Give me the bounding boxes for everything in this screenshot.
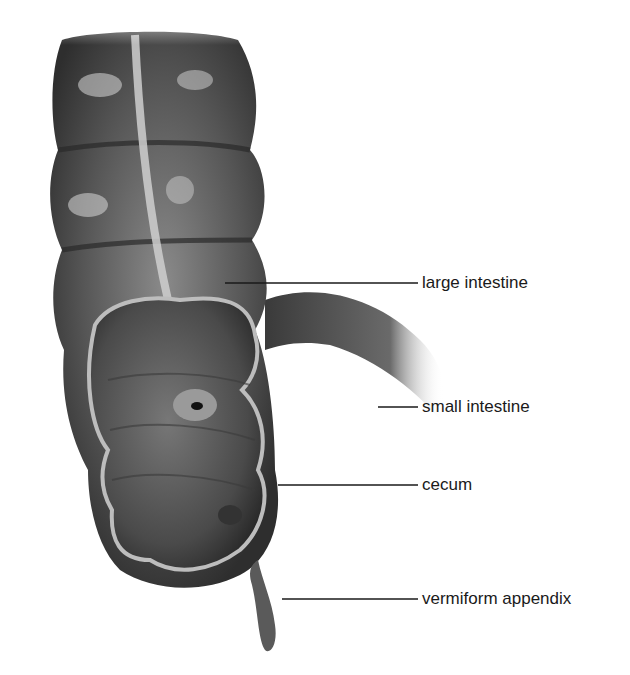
label-vermiform-appendix: vermiform appendix bbox=[422, 590, 571, 607]
label-large-intestine: large intestine bbox=[422, 274, 528, 291]
cecum-illustration bbox=[0, 0, 630, 675]
small-intestine-shape bbox=[265, 292, 444, 420]
cecum-cutaway bbox=[89, 298, 264, 569]
label-small-intestine: small intestine bbox=[422, 398, 530, 415]
label-cecum: cecum bbox=[422, 476, 472, 493]
appendix-shape bbox=[250, 560, 276, 651]
